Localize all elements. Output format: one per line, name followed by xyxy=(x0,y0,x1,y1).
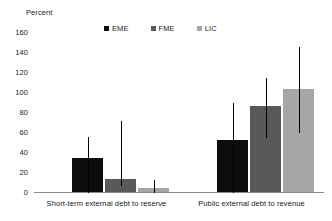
y-tick-40: 40 xyxy=(8,149,28,157)
error-bar-fme-0 xyxy=(121,121,122,186)
x-axis-line xyxy=(34,192,324,193)
y-tick-0: 0 xyxy=(8,189,28,197)
y-tick-140: 140 xyxy=(8,49,28,57)
y-axis-ticks: 160 140 120 100 80 60 40 20 0 xyxy=(8,29,28,197)
error-bar-fme-1 xyxy=(266,78,267,138)
plot-area xyxy=(34,33,324,193)
legend-swatch-fme xyxy=(151,26,156,31)
legend-label-eme: EME xyxy=(112,24,129,33)
category-label-1: Public external debt to revenue xyxy=(179,199,324,208)
y-tick-60: 60 xyxy=(8,129,28,137)
legend-swatch-lic xyxy=(197,26,202,31)
chart-container: Percent EME FME LIC 160 140 120 100 80 6… xyxy=(0,0,332,221)
chart-legend: EME FME LIC xyxy=(104,24,217,33)
y-tick-100: 100 xyxy=(8,89,28,97)
y-tick-80: 80 xyxy=(8,109,28,117)
y-tick-160: 160 xyxy=(8,29,28,37)
y-tick-120: 120 xyxy=(8,69,28,77)
legend-item-lic[interactable]: LIC xyxy=(197,24,217,33)
legend-item-eme[interactable]: EME xyxy=(104,24,129,33)
error-bar-eme-0 xyxy=(88,137,89,193)
legend-label-fme: FME xyxy=(159,24,175,33)
legend-item-fme[interactable]: FME xyxy=(151,24,175,33)
y-tick-20: 20 xyxy=(8,169,28,177)
y-axis-title: Percent xyxy=(26,8,53,17)
error-bar-lic-0 xyxy=(154,180,155,193)
category-label-0: Short-term external debt to reserve xyxy=(34,199,179,208)
legend-swatch-eme xyxy=(104,26,109,31)
legend-label-lic: LIC xyxy=(205,24,217,33)
error-bar-eme-1 xyxy=(233,103,234,193)
error-bar-lic-1 xyxy=(299,47,300,133)
